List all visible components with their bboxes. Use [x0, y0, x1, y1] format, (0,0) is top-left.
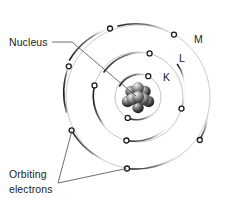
shell-label-k: K [163, 71, 170, 83]
electron [147, 51, 152, 56]
leader-line-orbiting-a [58, 131, 72, 184]
electron [92, 83, 97, 88]
electron-trail-arc [104, 53, 150, 72]
orbiting-electrons-label-line1: Orbiting [9, 168, 47, 181]
leader-line-orbiting-b [58, 169, 127, 184]
nucleus [122, 82, 154, 113]
leader-lines [52, 42, 136, 183]
electron [179, 106, 184, 111]
atom-diagram: Nucleus Orbiting electrons K L M [0, 0, 227, 206]
electron-trail-arc [126, 124, 170, 141]
electron-trail-arc [127, 152, 182, 169]
electron [197, 138, 202, 143]
electron [124, 138, 129, 143]
electron [172, 32, 177, 37]
electron [146, 74, 151, 79]
shell-label-m: M [194, 33, 203, 45]
orbiting-electrons-label-line2: electrons [9, 183, 53, 196]
nucleus-label: Nucleus [9, 36, 48, 49]
electron [125, 115, 130, 120]
electron [108, 26, 113, 31]
shell-label-l: L [179, 52, 185, 64]
electron-trail-arc [200, 98, 209, 140]
electron [66, 64, 71, 69]
nucleon [132, 91, 144, 103]
